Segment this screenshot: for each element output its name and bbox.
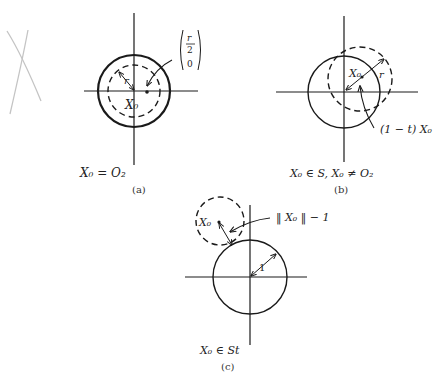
figure-canvas: r X₀ r 2 0 X₀ = O₂ (a) X₀ r (1 − t) X₀ X… (0, 0, 437, 383)
svg-text:2: 2 (187, 45, 193, 55)
panel-c-condition: X₀ ∈ St (199, 344, 240, 357)
panel-c-center-label: X₀ (198, 216, 212, 229)
panel-b-caption: (b) (334, 184, 348, 195)
panel-c-distance-arrow (219, 223, 232, 245)
panel-c-caption: (c) (221, 361, 235, 372)
panel-c-distance-note: ‖ X₀ ‖ − 1 (276, 211, 329, 225)
panel-c: X₀ 1 ‖ X₀ ‖ − 1 X₀ ∈ St (c) (185, 197, 329, 372)
panel-c-unit-radius-label: 1 (259, 262, 265, 273)
svg-text:r: r (187, 33, 192, 43)
panel-b-radius-label: r (379, 69, 385, 80)
panel-b-condition: X₀ ∈ S, X₀ ≠ O₂ (289, 167, 373, 180)
panel-a-caption: (a) (132, 184, 146, 195)
panel-a-point (145, 90, 149, 94)
panel-a-center-label: X₀ (124, 98, 139, 112)
panel-b-arrow-note: (1 − t) X₀ (380, 123, 433, 136)
panel-a-column-vector: r 2 0 (181, 30, 201, 70)
panel-a: r X₀ r 2 0 X₀ = O₂ (a) (79, 13, 201, 195)
svg-text:0: 0 (187, 59, 193, 69)
panel-a-condition: X₀ = O₂ (79, 166, 126, 180)
margin-pencil-x-mark (7, 30, 41, 114)
panel-b: X₀ r (1 − t) X₀ X₀ ∈ S, X₀ ≠ O₂ (b) (276, 16, 433, 195)
panel-b-center-label: X₀ (348, 67, 362, 80)
